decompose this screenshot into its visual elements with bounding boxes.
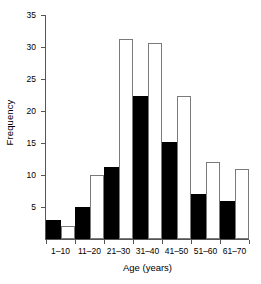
y-axis-title: Frequency bbox=[0, 0, 20, 245]
x-axis-tick-labels: 1–1011–2021–3031–4041–5051–6061–70 bbox=[46, 246, 249, 258]
x-axis-tick-mark bbox=[162, 240, 163, 244]
x-axis-tick-mark bbox=[191, 240, 192, 244]
y-axis-title-text: Frequency bbox=[5, 100, 16, 146]
x-axis-tick-label: 1–10 bbox=[51, 246, 70, 256]
y-axis-tick-labels: 5101520253035 bbox=[19, 0, 36, 284]
bar bbox=[206, 162, 221, 239]
y-axis-tick-label: 30 bbox=[20, 43, 36, 52]
x-axis-tick-mark bbox=[75, 240, 76, 244]
x-axis-tick-mark bbox=[220, 240, 221, 244]
x-axis-title: Age (years) bbox=[46, 262, 249, 274]
bar bbox=[46, 220, 61, 239]
x-axis-tick-mark bbox=[249, 240, 250, 244]
bar bbox=[133, 96, 148, 239]
plot-area bbox=[46, 15, 249, 239]
bar bbox=[177, 96, 192, 239]
x-axis-tick-label: 21–30 bbox=[107, 246, 131, 256]
bar bbox=[191, 194, 206, 239]
x-axis-tick-label: 11–20 bbox=[78, 246, 101, 256]
y-axis-tick-label: 25 bbox=[20, 75, 36, 84]
y-axis-tick-label: 35 bbox=[20, 11, 36, 20]
bar bbox=[235, 169, 250, 239]
x-axis-tick-label: 51–60 bbox=[194, 246, 218, 256]
x-axis-tick-label: 41–50 bbox=[165, 246, 189, 256]
bar bbox=[90, 175, 105, 239]
x-axis-tick-mark bbox=[46, 240, 47, 244]
bar bbox=[104, 167, 119, 239]
x-axis-tick-mark bbox=[133, 240, 134, 244]
y-axis-tick-label: 5 bbox=[20, 203, 36, 212]
bar-chart-figure: Frequency 5101520253035 1–1011–2021–3031… bbox=[0, 0, 261, 284]
x-axis-tick-mark bbox=[104, 240, 105, 244]
bar bbox=[61, 226, 76, 239]
x-axis-tick-label: 61–70 bbox=[223, 246, 247, 256]
y-axis-tick-label: 10 bbox=[20, 171, 36, 180]
y-axis-tick-label: 15 bbox=[20, 139, 36, 148]
bar bbox=[148, 43, 163, 239]
bar bbox=[220, 201, 235, 239]
x-axis-tick-label: 31–40 bbox=[136, 246, 160, 256]
bar bbox=[75, 207, 90, 239]
bar bbox=[119, 39, 134, 239]
x-axis-tick-marks bbox=[46, 240, 249, 245]
y-axis-tick-label: 20 bbox=[20, 107, 36, 116]
bar bbox=[162, 142, 177, 239]
